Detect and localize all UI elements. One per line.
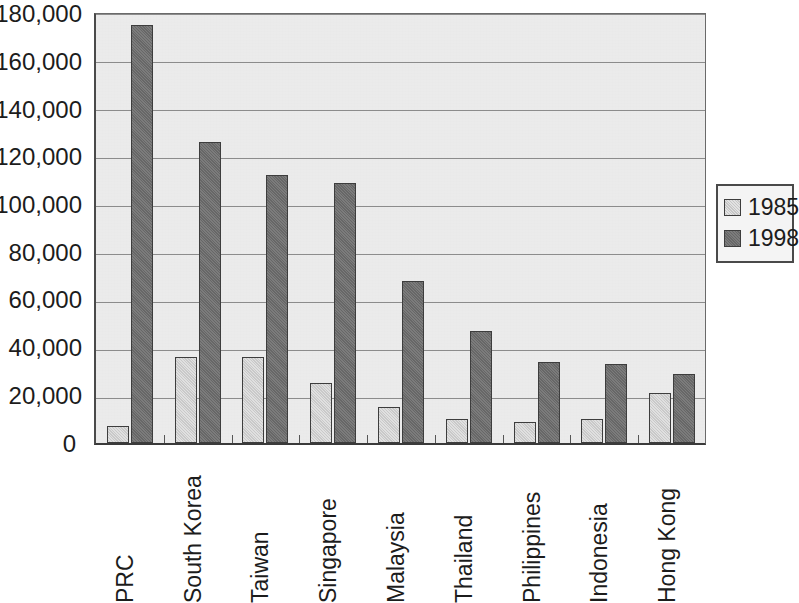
x-axis-tick [232,435,233,443]
y-tick-label: 120,000 [0,145,82,169]
bar-philippines-1998 [538,362,560,443]
y-tick-label: 20,000 [9,384,82,408]
y-tick-label: 140,000 [0,98,82,122]
bar-indonesia-1998 [605,364,627,443]
y-tick-label: 60,000 [9,288,82,312]
bar-singapore-1985 [310,383,332,443]
y-tick-label: 100,000 [0,193,82,217]
x-axis-category-label: Singapore [317,498,340,603]
y-tick-label: 0 [63,432,76,456]
x-axis-category-label: South Korea [182,475,205,603]
y-axis: 180,000 160,000 140,000 120,000 100,000 … [0,0,88,470]
bar-singapore-1998 [334,183,356,443]
plot-area [94,13,706,445]
y-tick-label: 40,000 [9,336,82,360]
x-axis-category-label: Philippines [521,492,544,603]
y-tick-label: 160,000 [0,50,82,74]
legend-label: 1985 [748,196,799,219]
legend-swatch-icon-1998 [724,230,741,247]
x-axis-tick [503,435,504,443]
y-tick-label: 180,000 [0,2,82,26]
x-axis-tick [367,435,368,443]
x-axis-category-label: Malaysia [385,512,408,603]
bars-layer [96,14,705,443]
x-axis-category-label: PRC [114,554,137,603]
x-axis-tick [435,435,436,443]
x-axis-tick [570,435,571,443]
bar-prc-1998 [131,25,153,443]
x-axis: PRCSouth KoreaTaiwanSingaporeMalaysiaTha… [94,447,706,599]
x-axis-tick [299,435,300,443]
bar-hong-kong-1985 [649,393,671,443]
bar-taiwan-1998 [266,175,288,443]
legend-item-1985[interactable]: 1985 [724,192,787,223]
bar-south-korea-1998 [199,142,221,443]
y-tick-label: 80,000 [9,241,82,265]
x-axis-category-label: Indonesia [588,503,611,603]
x-axis-tick [164,435,165,443]
x-axis-category-label: Hong Kong [656,488,679,603]
legend-swatch-icon-1985 [724,199,741,216]
x-axis-category-label: Taiwan [249,531,272,603]
bar-hong-kong-1998 [673,374,695,443]
bar-prc-1985 [107,426,129,443]
bar-malaysia-1985 [378,407,400,443]
bar-taiwan-1985 [242,357,264,443]
x-axis-category-label: Thailand [453,515,476,603]
bar-philippines-1985 [514,422,536,444]
legend: 1985 1998 [716,184,794,263]
legend-item-1998[interactable]: 1998 [724,223,787,254]
bar-south-korea-1985 [175,357,197,443]
x-axis-tick [638,435,639,443]
bar-thailand-1998 [470,331,492,443]
legend-label: 1998 [748,227,799,250]
bar-thailand-1985 [446,419,468,443]
bar-indonesia-1985 [581,419,603,443]
bar-malaysia-1998 [402,281,424,443]
